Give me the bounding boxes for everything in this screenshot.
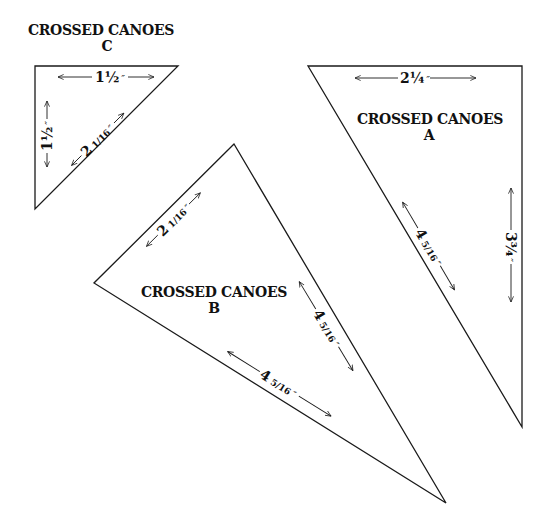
svg-text:3¾″: 3¾″ bbox=[503, 232, 519, 262]
piece-b-letter: B bbox=[208, 300, 220, 316]
svg-text:1½″: 1½″ bbox=[39, 121, 55, 151]
arrow-up-left-icon bbox=[403, 202, 418, 228]
svg-text:21/16″: 21/16″ bbox=[154, 199, 194, 239]
piece-b-bottom-dimension: 45/16″ bbox=[223, 345, 335, 423]
piece-c-hypotenuse-dimension: 21/16″ bbox=[66, 107, 130, 171]
piece-c-letter: C bbox=[102, 38, 113, 54]
svg-text:21/16″: 21/16″ bbox=[77, 120, 117, 160]
arrow-down-left-icon bbox=[146, 235, 157, 246]
arrow-down-right-icon bbox=[440, 266, 454, 290]
triangle-b-outline bbox=[94, 144, 446, 503]
piece-a-hypotenuse-dimension: 45/16″ bbox=[396, 198, 462, 294]
quilt-pattern-diagram: CROSSED CANOES C 1½″ 1½″ 21/16″ bbox=[0, 0, 551, 527]
piece-c-top-dimension: 1½″ bbox=[58, 69, 154, 85]
piece-c-left-dimension: 1½″ bbox=[39, 101, 55, 167]
dim-whole: 2 bbox=[400, 70, 410, 86]
piece-c-title: CROSSED CANOES bbox=[28, 22, 174, 38]
arrow-up-left-icon bbox=[299, 282, 316, 309]
svg-text:1½″: 1½″ bbox=[95, 69, 125, 85]
dim-inch-mark: ″ bbox=[426, 74, 430, 85]
piece-b-short-side-dimension: 21/16″ bbox=[141, 187, 206, 252]
arrow-up-left-icon bbox=[228, 352, 260, 372]
piece-a-right-dimension: 3¾″ bbox=[503, 188, 519, 302]
piece-c: CROSSED CANOES C 1½″ 1½″ 21/16″ bbox=[28, 22, 178, 209]
piece-b-right-side-dimension: 45/16″ bbox=[292, 277, 359, 374]
dim-frac: ¼ bbox=[410, 70, 425, 86]
arrow-down-right-icon bbox=[299, 396, 331, 416]
piece-a-title: CROSSED CANOES bbox=[357, 111, 503, 127]
dim-frac: 5/16 bbox=[317, 320, 337, 344]
svg-text:45/16″: 45/16″ bbox=[412, 226, 447, 269]
dim-inch-mark: ″ bbox=[121, 73, 125, 84]
dim-whole: 3 bbox=[503, 232, 519, 242]
dim-inch-mark: ″ bbox=[43, 121, 54, 125]
svg-text:45/16″: 45/16″ bbox=[310, 307, 345, 350]
svg-text:2¼″: 2¼″ bbox=[400, 70, 430, 86]
dim-frac: ½ bbox=[39, 127, 55, 142]
dim-frac: ½ bbox=[105, 69, 120, 85]
arrow-down-right-icon bbox=[338, 347, 352, 371]
dim-frac: 1/16 bbox=[166, 207, 189, 230]
piece-b-title: CROSSED CANOES bbox=[141, 284, 287, 300]
piece-a-letter: A bbox=[423, 127, 436, 143]
dim-frac: ¾ bbox=[503, 242, 519, 257]
piece-b: CROSSED CANOES B 21/16″ 45/16″ 45/16″ bbox=[94, 144, 446, 503]
arrow-up-right-icon bbox=[189, 193, 200, 204]
dim-inch-mark: ″ bbox=[504, 258, 515, 262]
svg-text:45/16″: 45/16″ bbox=[257, 366, 300, 401]
dim-whole: 1 bbox=[95, 69, 105, 85]
dim-frac: 1/16 bbox=[90, 127, 113, 150]
piece-a-top-dimension: 2¼″ bbox=[355, 70, 476, 86]
piece-a: CROSSED CANOES A 2¼″ 3¾″ 45/16″ bbox=[308, 66, 522, 427]
dim-whole: 1 bbox=[39, 141, 55, 151]
